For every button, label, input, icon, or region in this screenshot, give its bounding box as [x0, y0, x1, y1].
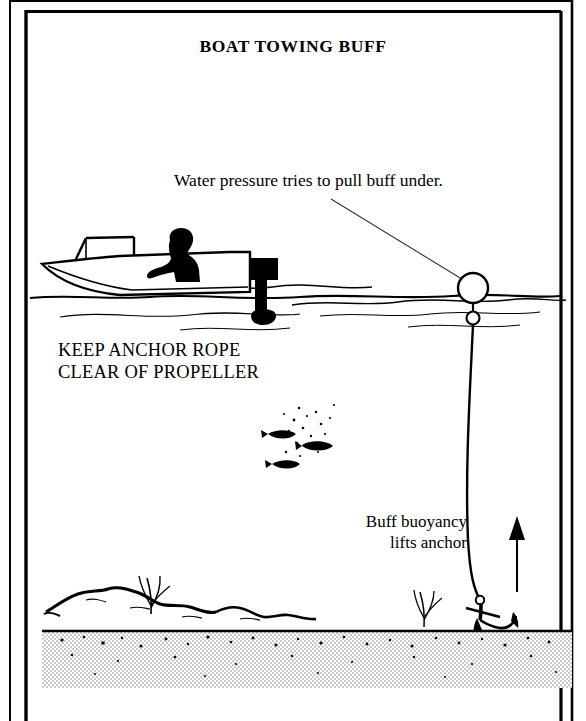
illustration-figure: BOAT TOWING BUFF Water pressure tries to…: [0, 0, 586, 721]
buff-ring: [467, 312, 480, 325]
figure-title: BOAT TOWING BUFF: [199, 36, 386, 56]
page-background: [0, 0, 586, 721]
seabed: [42, 630, 572, 688]
warning-label-line2: CLEAR OF PROPELLER: [58, 362, 259, 382]
anchor-eye: [476, 596, 484, 604]
diagram-canvas: BOAT TOWING BUFF Water pressure tries to…: [0, 0, 586, 721]
surface-note-label: Water pressure tries to pull buff under.: [174, 170, 443, 190]
buoyancy-label-line2: lifts anchor: [390, 533, 467, 552]
warning-label-line1: KEEP ANCHOR ROPE: [58, 340, 240, 360]
buoyancy-label-line1: Buff buoyancy: [366, 512, 468, 531]
